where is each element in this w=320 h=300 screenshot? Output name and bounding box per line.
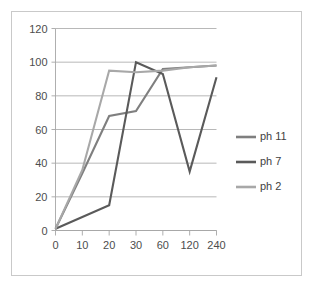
y-tick-label-80: 80 bbox=[35, 90, 47, 102]
y-tick-label-0: 0 bbox=[41, 225, 47, 237]
y-axis-tick-labels: 020406080100120 bbox=[29, 23, 47, 237]
x-tick-label-60: 60 bbox=[157, 239, 169, 251]
legend-label-ph-7: ph 7 bbox=[260, 155, 281, 167]
series-line-ph-7 bbox=[56, 62, 217, 229]
x-axis-tick-labels: 010203060120240 bbox=[52, 239, 225, 251]
series-line-ph-2 bbox=[56, 66, 217, 229]
y-tick-label-20: 20 bbox=[35, 191, 47, 203]
y-tick-label-60: 60 bbox=[35, 124, 47, 136]
gridlines bbox=[56, 29, 217, 231]
x-tick-label-120: 120 bbox=[180, 239, 198, 251]
legend-label-ph-2: ph 2 bbox=[260, 180, 281, 192]
x-tick-label-20: 20 bbox=[103, 239, 115, 251]
x-tick-label-0: 0 bbox=[52, 239, 58, 251]
y-tick-label-100: 100 bbox=[29, 56, 47, 68]
x-tick-label-30: 30 bbox=[130, 239, 142, 251]
y-tick-label-120: 120 bbox=[29, 23, 47, 35]
series-line-ph-11 bbox=[56, 66, 217, 229]
y-tick-label-40: 40 bbox=[35, 157, 47, 169]
chart-legend: ph 11ph 7ph 2 bbox=[236, 130, 287, 192]
x-tick-label-10: 10 bbox=[76, 239, 88, 251]
x-tick-label-240: 240 bbox=[207, 239, 225, 251]
legend-label-ph-11: ph 11 bbox=[260, 130, 287, 142]
axis-tick-marks bbox=[52, 29, 217, 236]
line-chart: 020406080100120 010203060120240 ph 11ph … bbox=[0, 0, 320, 300]
data-series-lines bbox=[56, 62, 217, 229]
